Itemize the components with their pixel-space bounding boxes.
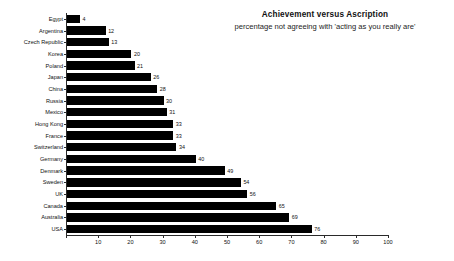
bar-value-label: 33 <box>176 120 182 127</box>
category-label: China <box>48 85 63 92</box>
x-axis-tick <box>227 235 228 238</box>
bar <box>67 38 109 46</box>
y-axis-tick <box>64 159 66 160</box>
x-axis-tick-label: 80 <box>320 239 326 246</box>
bar-value-label: 21 <box>137 62 143 69</box>
bar <box>67 108 167 116</box>
y-axis-tick <box>64 31 66 32</box>
category-label: Denmark <box>40 167 63 174</box>
y-axis-tick <box>64 182 66 183</box>
category-label: Australia <box>41 214 63 221</box>
x-axis-tick-label: 90 <box>353 239 359 246</box>
bar-row: Denmark49 <box>66 165 388 177</box>
x-axis-tick-label: 70 <box>288 239 294 246</box>
x-axis-tick-label: 20 <box>127 239 133 246</box>
bar <box>67 166 225 174</box>
bar-row: Germany40 <box>66 153 388 165</box>
bar-row: Switzerland34 <box>66 142 388 154</box>
category-label: Korea <box>48 50 63 57</box>
category-label: Japan <box>48 74 63 81</box>
category-label: Sweden <box>43 179 63 186</box>
y-axis-tick <box>64 66 66 67</box>
category-label: Canada <box>43 202 63 209</box>
x-axis-tick-label: 30 <box>159 239 165 246</box>
bar <box>67 178 241 186</box>
bar-row: France33 <box>66 130 388 142</box>
y-axis-tick <box>64 19 66 20</box>
bar <box>67 131 173 139</box>
bar-value-label: 54 <box>243 179 249 186</box>
category-label: Egypt <box>49 15 63 22</box>
x-axis-tick <box>356 235 357 238</box>
y-axis-tick <box>64 54 66 55</box>
bar-value-label: 49 <box>227 167 233 174</box>
x-axis-tick-label: 10 <box>95 239 101 246</box>
category-label: France <box>46 132 63 139</box>
y-axis-tick <box>64 194 66 195</box>
y-axis-tick <box>64 42 66 43</box>
bar <box>67 15 80 23</box>
bar-value-label: 33 <box>176 132 182 139</box>
bar-row: Russia30 <box>66 95 388 107</box>
bar <box>67 225 312 233</box>
x-axis-tick <box>163 235 164 238</box>
bar-value-label: 12 <box>108 27 114 34</box>
category-label: Germany <box>40 156 63 163</box>
chart-container: Achievement versus Ascription percentage… <box>0 0 454 261</box>
bar <box>67 61 135 69</box>
y-axis-tick <box>64 112 66 113</box>
bar-value-label: 13 <box>111 39 117 46</box>
x-axis-tick-label: 60 <box>256 239 262 246</box>
bar-value-label: 65 <box>279 202 285 209</box>
y-axis-tick <box>64 147 66 148</box>
bar-value-label: 28 <box>160 85 166 92</box>
bar-row: Egypt4 <box>66 13 388 25</box>
category-label: Hong Kong <box>35 120 63 127</box>
y-axis-tick <box>64 229 66 230</box>
bar-value-label: 4 <box>82 15 85 22</box>
category-label: Czech Republic <box>24 39 63 46</box>
category-label: Russia <box>46 97 63 104</box>
y-axis-tick <box>64 77 66 78</box>
bar-row: Sweden54 <box>66 177 388 189</box>
y-axis-tick <box>64 217 66 218</box>
bar <box>67 26 106 34</box>
x-axis-tick <box>388 235 389 238</box>
bar <box>67 73 151 81</box>
bar-value-label: 56 <box>250 191 256 198</box>
y-axis-tick <box>64 136 66 137</box>
bar-value-label: 40 <box>198 156 204 163</box>
y-axis-tick <box>64 206 66 207</box>
bar <box>67 213 289 221</box>
bar-row: Argentina12 <box>66 25 388 37</box>
y-axis-tick <box>64 89 66 90</box>
bar <box>67 96 164 104</box>
bar-row: Mexico31 <box>66 106 388 118</box>
bar-value-label: 26 <box>153 74 159 81</box>
x-axis-tick <box>324 235 325 238</box>
x-axis-tick <box>98 235 99 238</box>
bar-row: USA76 <box>66 223 388 235</box>
bar-row: China28 <box>66 83 388 95</box>
bar-row: Hong Kong33 <box>66 118 388 130</box>
bar-row: Poland21 <box>66 60 388 72</box>
category-label: Argentina <box>39 27 63 34</box>
bar-row: Czech Republic13 <box>66 36 388 48</box>
bar-value-label: 69 <box>292 214 298 221</box>
x-axis-tick-label: 40 <box>192 239 198 246</box>
bar <box>67 155 196 163</box>
y-axis-tick <box>64 171 66 172</box>
x-axis-tick-label: 100 <box>383 239 392 246</box>
bar-row: Japan26 <box>66 71 388 83</box>
x-axis-tick <box>130 235 131 238</box>
bar-value-label: 76 <box>314 226 320 233</box>
bar <box>67 190 247 198</box>
category-label: USA <box>51 226 63 233</box>
category-label: Mexico <box>45 109 63 116</box>
x-axis-tick-label: 50 <box>224 239 230 246</box>
x-axis-tick <box>259 235 260 238</box>
bar-row: Australia69 <box>66 212 388 224</box>
y-axis-tick <box>64 124 66 125</box>
bar-value-label: 20 <box>134 50 140 57</box>
x-axis-tick <box>291 235 292 238</box>
